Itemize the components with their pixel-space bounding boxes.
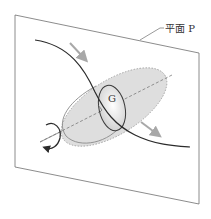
plane-label: 平面 P bbox=[165, 23, 195, 34]
center-of-mass-label: G bbox=[108, 93, 116, 104]
plane-label-leader bbox=[140, 28, 164, 40]
diagram-canvas: 平面 P G bbox=[0, 0, 211, 219]
